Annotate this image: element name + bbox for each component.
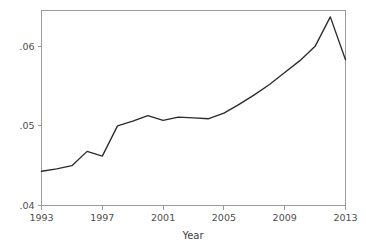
x-tick-label: 2001 <box>151 212 175 223</box>
series-line <box>42 17 346 171</box>
x-axis-tick-marks <box>42 206 346 210</box>
x-axis-tick-labels: 199319972001200520092013 <box>29 212 357 223</box>
data-series-group <box>42 17 346 171</box>
x-tick-label: 2013 <box>333 212 357 223</box>
chart-canvas: .04.05.06 199319972001200520092013 Year <box>0 0 366 247</box>
y-tick-label: .04 <box>19 200 34 211</box>
x-tick-label: 2009 <box>273 212 297 223</box>
y-axis-tick-marks <box>38 46 42 205</box>
x-tick-label: 1997 <box>90 212 114 223</box>
y-tick-label: .05 <box>19 120 34 131</box>
plot-frame <box>42 11 346 206</box>
line-chart-figure: .04.05.06 199319972001200520092013 Year <box>0 0 366 247</box>
x-tick-label: 1993 <box>29 212 53 223</box>
x-tick-label: 2005 <box>212 212 236 223</box>
plot-frame-border <box>42 11 346 206</box>
y-tick-label: .06 <box>19 41 34 52</box>
y-axis-tick-labels: .04.05.06 <box>19 41 34 211</box>
x-axis-title: Year <box>181 230 204 241</box>
